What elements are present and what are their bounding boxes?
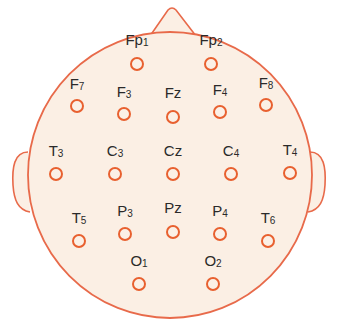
electrode-o1-icon bbox=[132, 277, 146, 291]
electrode-f7-icon bbox=[70, 99, 84, 113]
electrode-label-pz: Pz bbox=[164, 200, 182, 215]
electrode-label-o2: O2 bbox=[204, 253, 221, 268]
electrode-o2-icon bbox=[206, 277, 220, 291]
electrode-label-p3: P3 bbox=[117, 203, 133, 218]
head-outline bbox=[0, 0, 337, 324]
electrode-fz-icon bbox=[166, 110, 180, 124]
electrode-label-fz: Fz bbox=[165, 85, 182, 100]
electrode-t4-icon bbox=[283, 166, 297, 180]
electrode-pz-icon bbox=[166, 225, 180, 239]
electrode-label-t6: T6 bbox=[261, 210, 276, 225]
electrode-label-f4: F4 bbox=[213, 82, 228, 97]
electrode-label-f7: F7 bbox=[70, 76, 85, 91]
electrode-fp1-icon bbox=[130, 57, 144, 71]
electrode-p4-icon bbox=[213, 227, 227, 241]
electrode-f4-icon bbox=[213, 105, 227, 119]
electrode-c3-icon bbox=[108, 167, 122, 181]
electrode-f3-icon bbox=[117, 107, 131, 121]
electrode-label-t3: T3 bbox=[49, 143, 64, 158]
electrode-label-c4: C4 bbox=[223, 143, 239, 158]
electrode-t6-icon bbox=[261, 234, 275, 248]
electrode-label-fp1: Fp1 bbox=[125, 32, 148, 47]
electrode-t5-icon bbox=[72, 234, 86, 248]
electrode-label-f3: F3 bbox=[117, 84, 132, 99]
electrode-label-cz: Cz bbox=[164, 143, 182, 158]
electrode-label-c3: C3 bbox=[107, 143, 123, 158]
electrode-t3-icon bbox=[49, 167, 63, 181]
electrode-label-p4: P4 bbox=[212, 203, 228, 218]
electrode-label-fp2: Fp2 bbox=[199, 32, 222, 47]
electrode-cz-icon bbox=[166, 167, 180, 181]
electrode-p3-icon bbox=[118, 227, 132, 241]
electrode-c4-icon bbox=[224, 167, 238, 181]
electrode-f8-icon bbox=[259, 98, 273, 112]
electrode-fp2-icon bbox=[204, 57, 218, 71]
electrode-label-f8: F8 bbox=[259, 75, 274, 90]
electrode-label-t5: T5 bbox=[72, 210, 87, 225]
electrode-label-t4: T4 bbox=[283, 142, 298, 157]
electrode-label-o1: O1 bbox=[130, 253, 147, 268]
